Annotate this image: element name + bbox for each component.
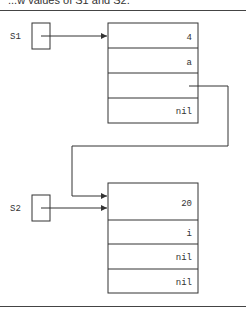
- field-value: i: [187, 229, 192, 239]
- field-value: nil: [176, 278, 192, 288]
- node-s1: 4 a nil: [108, 23, 198, 123]
- node-s2: 20 i nil nil: [108, 183, 198, 293]
- pointer-label: S1: [10, 32, 21, 42]
- field-value: nil: [176, 107, 192, 117]
- field-value: a: [187, 58, 193, 68]
- pointer-s1: S1: [10, 23, 107, 49]
- field-value: nil: [176, 253, 192, 263]
- linked-structure-diagram: S1 4 a nil S2 20 i nil nil: [0, 0, 246, 311]
- field-value: 4: [187, 33, 192, 43]
- pointer-label: S2: [10, 204, 21, 214]
- pointer-s2: S2: [10, 195, 107, 221]
- field-value: 20: [181, 199, 192, 209]
- link-arrow-icon: [72, 86, 228, 196]
